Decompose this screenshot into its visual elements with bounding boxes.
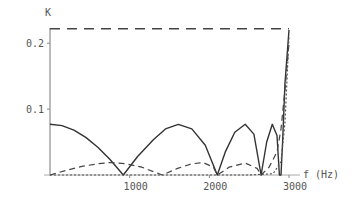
x-axis-label: f (Hz) <box>303 169 339 180</box>
series <box>50 29 289 175</box>
x-tick-label: 1000 <box>124 181 148 192</box>
series-line-solid <box>50 30 289 175</box>
y-axis-label: K <box>45 7 51 18</box>
series-line-dotted <box>50 37 289 175</box>
y-tick-label: 0.2 <box>26 38 44 49</box>
axes: K f (Hz) <box>44 7 339 180</box>
y-tick-label: 0.1 <box>26 104 44 115</box>
series-line-dashed <box>50 43 289 175</box>
chart: K f (Hz) 1000200030000.10.2 <box>0 0 354 200</box>
ticks: 1000200030000.10.2 <box>26 38 307 192</box>
x-tick-label: 2000 <box>203 181 227 192</box>
x-tick-label: 3000 <box>283 181 307 192</box>
